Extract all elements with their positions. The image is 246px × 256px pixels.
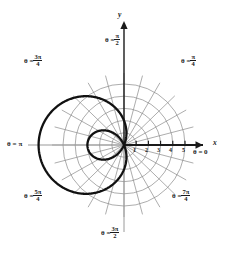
theta-pi-2-fraction: π2 <box>114 33 120 47</box>
theta-pi-value: π <box>16 141 22 148</box>
theta-pi-2-denominator: 2 <box>114 40 120 47</box>
x-tick-label-2: 2 <box>145 147 148 153</box>
x-tick-label-5: 5 <box>182 147 185 153</box>
x-axis-label: x <box>213 138 217 147</box>
theta-7pi-4-prefix: θ = <box>172 193 181 200</box>
theta-pi-prefix: θ = <box>7 141 16 148</box>
theta-5pi-4-denominator: 4 <box>33 196 42 203</box>
x-tick-label-3: 3 <box>157 147 160 153</box>
theta-0-prefix: θ = <box>193 149 202 156</box>
theta-3pi-2-denominator: 2 <box>110 233 119 240</box>
theta-pi-2-prefix: θ = <box>105 37 114 44</box>
x-tick-label-4: 4 <box>169 147 172 153</box>
angle-label-theta-pi-4: θ =π4 <box>181 54 196 68</box>
angle-label-theta-pi-2: θ =π2 <box>105 33 120 47</box>
angle-label-theta-3pi-2: θ =3π2 <box>101 226 119 240</box>
theta-7pi-4-denominator: 4 <box>181 196 190 203</box>
theta-5pi-4-fraction: 5π4 <box>33 189 42 203</box>
angle-label-theta-7pi-4: θ =7π4 <box>172 189 190 203</box>
x-tick-label-1: 1 <box>133 147 136 153</box>
theta-3pi-2-prefix: θ = <box>101 230 110 237</box>
theta-3pi-2-fraction: 3π2 <box>110 226 119 240</box>
angle-label-theta-3pi-4: θ =3π4 <box>24 54 42 68</box>
polar-plot-figure: x y 1 2 3 4 5 θ =0 θ =π4 θ =π2 θ =3π4 θ … <box>0 0 246 256</box>
theta-3pi-4-fraction: 3π4 <box>33 54 42 68</box>
angle-label-theta-pi: θ =π <box>7 141 22 148</box>
theta-pi-4-fraction: π4 <box>190 54 196 68</box>
y-axis-label: y <box>118 10 121 19</box>
angle-label-theta-5pi-4: θ =5π4 <box>24 189 42 203</box>
theta-3pi-4-prefix: θ = <box>24 58 33 65</box>
theta-5pi-4-prefix: θ = <box>24 193 33 200</box>
polar-grid-canvas <box>0 0 246 256</box>
angle-label-theta-0: θ =0 <box>193 149 207 156</box>
theta-pi-4-prefix: θ = <box>181 58 190 65</box>
y-axis-arrowhead <box>120 21 127 29</box>
theta-0-value: 0 <box>202 149 207 156</box>
theta-7pi-4-fraction: 7π4 <box>181 189 190 203</box>
theta-pi-4-denominator: 4 <box>190 61 196 68</box>
theta-3pi-4-denominator: 4 <box>33 61 42 68</box>
